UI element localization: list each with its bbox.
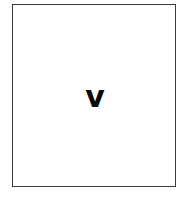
- letter-container: v: [13, 5, 175, 186]
- letter-glyph: v: [85, 82, 105, 112]
- letter-card: v: [12, 4, 176, 187]
